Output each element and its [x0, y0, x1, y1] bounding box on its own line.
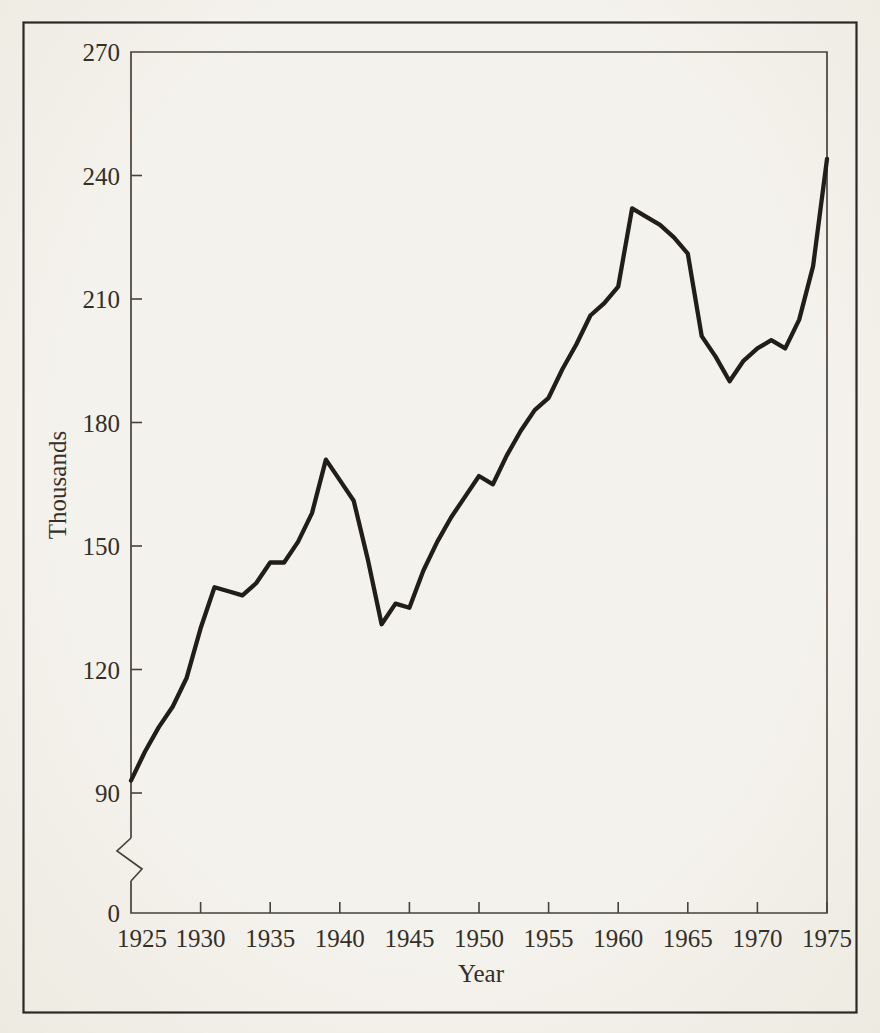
- x-tick-label: 1935: [245, 925, 295, 952]
- y-tick-label: 210: [83, 286, 121, 313]
- y-tick-label: 270: [83, 39, 121, 66]
- y-axis-break-icon: [117, 838, 142, 881]
- x-tick-label: 1955: [524, 925, 574, 952]
- y-tick-label: 120: [83, 657, 121, 684]
- scanned-figure-page: 090120150180210240270 192519301935194019…: [0, 0, 880, 1033]
- figure-border: [24, 23, 857, 1013]
- x-axis-ticks: 1925193019351940194519501955196019651970…: [117, 902, 852, 952]
- x-axis-title: Year: [458, 960, 505, 987]
- y-tick-label: 240: [83, 163, 121, 190]
- plot-box-axes: [131, 52, 827, 913]
- x-tick-label: 1975: [802, 925, 852, 952]
- x-tick-label: 1970: [732, 925, 782, 952]
- x-tick-label: 1940: [315, 925, 365, 952]
- line-chart: 090120150180210240270 192519301935194019…: [0, 0, 880, 1033]
- y-tick-label: 90: [95, 780, 120, 807]
- x-tick-label: 1945: [384, 925, 434, 952]
- x-tick-label: 1930: [176, 925, 226, 952]
- x-tick-label: 1925: [117, 925, 167, 952]
- x-tick-label: 1950: [454, 925, 504, 952]
- y-tick-label: 180: [83, 410, 121, 437]
- x-tick-label: 1960: [593, 925, 643, 952]
- y-tick-label: 0: [108, 900, 121, 927]
- y-axis-title: Thousands: [44, 431, 71, 539]
- y-axis-ticks: 090120150180210240270: [83, 39, 143, 927]
- x-tick-label: 1965: [663, 925, 713, 952]
- data-line: [131, 159, 827, 781]
- y-tick-label: 150: [83, 533, 121, 560]
